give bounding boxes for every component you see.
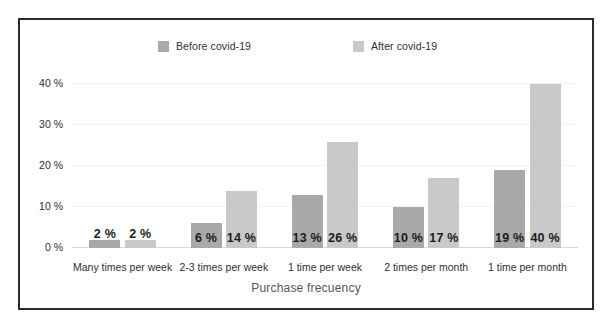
y-axis-tick-label: 30 % — [39, 118, 63, 130]
chart-legend: Before covid-19 After covid-19 — [20, 40, 592, 60]
x-axis-tick-label: 1 time per month — [488, 261, 567, 273]
bar-value-label: 13 % — [293, 231, 322, 245]
legend-swatch-before-covid-19 — [158, 41, 169, 52]
x-axis-tick-label: 1 time per week — [288, 261, 362, 273]
bar[interactable]: 10 % — [393, 207, 424, 248]
bar-group: 13 %26 % — [274, 68, 375, 248]
bar-value-label: 40 % — [530, 231, 559, 245]
bar-value-label: 10 % — [394, 231, 423, 245]
bar-series-layer: 2 %2 %6 %14 %13 %26 %10 %17 %19 %40 % — [72, 68, 578, 248]
bar-value-label: 17 % — [429, 231, 458, 245]
bar-value-label: 2 % — [94, 227, 116, 241]
bar[interactable]: 6 % — [191, 223, 222, 248]
legend-item-after-covid-19[interactable]: After covid-19 — [353, 40, 437, 52]
bar-group: 6 %14 % — [173, 68, 274, 248]
bar-value-label: 6 % — [195, 231, 217, 245]
bar-value-label: 26 % — [328, 231, 357, 245]
legend-label-after-covid-19: After covid-19 — [371, 40, 437, 52]
x-axis-tick-labels: Many times per week2-3 times per week1 t… — [72, 261, 578, 277]
bar[interactable]: 19 % — [494, 170, 525, 248]
bar-value-label: 2 % — [129, 227, 151, 241]
x-axis-tick-label: 2 times per month — [384, 261, 468, 273]
x-axis-tick-label: Many times per week — [73, 261, 172, 273]
x-axis-tick-label: 2-3 times per week — [179, 261, 268, 273]
bar-value-label: 19 % — [495, 231, 524, 245]
y-axis-tick-label: 40 % — [39, 77, 63, 89]
legend-label-before-covid-19: Before covid-19 — [176, 40, 251, 52]
bar[interactable]: 17 % — [428, 178, 459, 248]
bar[interactable]: 2 % — [89, 240, 120, 248]
bar[interactable]: 26 % — [327, 142, 358, 248]
legend-item-before-covid-19[interactable]: Before covid-19 — [158, 40, 251, 52]
bar-group: 10 %17 % — [376, 68, 477, 248]
bar[interactable]: 2 % — [125, 240, 156, 248]
y-axis-tick-label: 10 % — [39, 200, 63, 212]
y-axis-tick-label: 0 % — [45, 241, 63, 253]
bar[interactable]: 13 % — [292, 195, 323, 248]
chart-figure-frame: Before covid-19 After covid-19 0 %10 %20… — [18, 18, 594, 310]
bar[interactable]: 40 % — [530, 84, 561, 248]
bar-group: 19 %40 % — [477, 68, 578, 248]
bar-group: 2 %2 % — [72, 68, 173, 248]
bar[interactable]: 14 % — [226, 191, 257, 248]
x-axis-title: Purchase frecuency — [20, 281, 592, 295]
bar-value-label: 14 % — [227, 231, 256, 245]
legend-swatch-after-covid-19 — [353, 41, 364, 52]
plot-area: 0 %10 %20 %30 %40 % 2 %2 %6 %14 %13 %26 … — [72, 68, 578, 248]
y-axis-tick-label: 20 % — [39, 159, 63, 171]
